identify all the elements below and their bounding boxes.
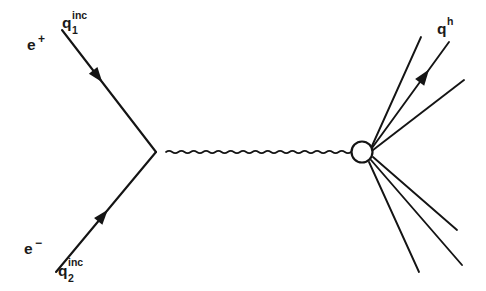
- positron-label-charge: +: [38, 32, 45, 46]
- incoming-quark-1-subscript: 1: [72, 24, 78, 36]
- incoming-quark-1-superscript: inc: [72, 9, 87, 21]
- positron-label-base: e: [27, 36, 36, 53]
- incoming-quark-1-base: q: [62, 14, 71, 31]
- incoming-quark-2-superscript: inc: [68, 256, 83, 268]
- feynman-diagram-figure: e + q 1 inc e − q 2 inc q: [0, 0, 486, 291]
- electron-label-base: e: [24, 240, 33, 257]
- hadronization-blob: [352, 142, 373, 163]
- outgoing-hadron-base: q: [437, 20, 446, 37]
- feynman-diagram-canvas: e + q 1 inc e − q 2 inc q: [0, 0, 486, 291]
- electron-label-charge: −: [35, 236, 42, 250]
- incoming-quark-2-subscript: 2: [68, 272, 74, 284]
- outgoing-hadron-superscript: h: [447, 15, 453, 27]
- incoming-quark-2-base: q: [58, 262, 67, 279]
